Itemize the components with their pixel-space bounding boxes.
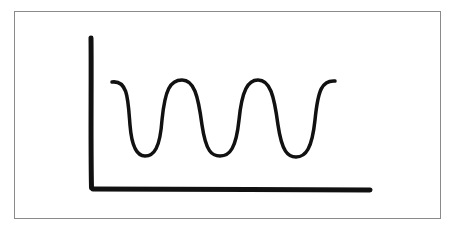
sketch-canvas [0,0,456,229]
y-axis [91,38,92,188]
wave-curve [112,80,335,157]
x-axis [93,189,370,190]
